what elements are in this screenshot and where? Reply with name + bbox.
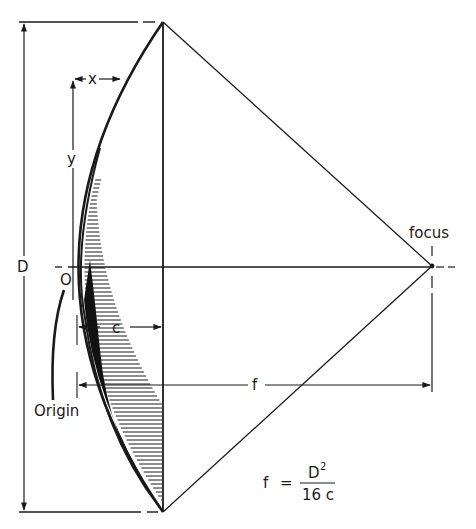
formula-exponent: 2 (320, 461, 326, 472)
f-label: f (252, 376, 258, 394)
x-label: x (88, 70, 97, 88)
formula-numerator: D (308, 464, 320, 482)
ray-top-to-focus (163, 22, 432, 266)
ray-bottom-to-focus (163, 266, 432, 512)
c-label: c (112, 319, 120, 337)
formula-denominator: 16 c (302, 486, 334, 504)
diagram-canvas: D focus x y c (0, 0, 476, 529)
origin-label: Origin (34, 402, 79, 420)
origin-o-label: O (60, 271, 72, 289)
formula-lhs: f (263, 474, 269, 492)
focus-point (430, 264, 435, 269)
y-label: y (67, 150, 76, 168)
formula-equals: = (280, 474, 293, 492)
parabolic-reflector-diagram: D focus x y c (0, 0, 476, 529)
focus-label: focus (409, 224, 449, 242)
origin-leader-line (52, 290, 64, 400)
focal-length-formula: f = D 2 16 c (263, 461, 335, 504)
diameter-label: D (17, 258, 29, 276)
